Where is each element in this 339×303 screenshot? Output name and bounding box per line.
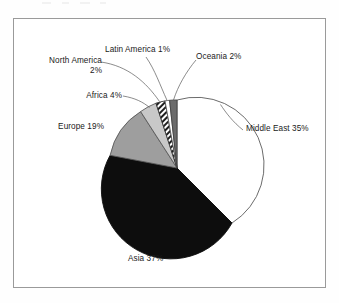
scan-artifact [80,2,90,4]
chart-page: North America 2% Latin America 1% Oceani… [0,0,339,303]
scan-artifact [42,2,51,4]
scan-artifact [62,2,69,4]
pie-label-oceania: Oceania 2% [196,52,241,62]
pie-label-asia: Asia 37% [128,254,163,264]
pie-label-north-america: North America 2% [30,56,102,75]
pie-label-africa: Africa 4% [58,91,122,101]
scan-artifact [100,2,106,4]
pie-label-europe: Europe 19% [30,122,104,132]
pie-label-north-america-line2: 2% [30,66,102,76]
pie-label-latin-america: Latin America 1% [105,45,170,55]
pie-label-middle-east: Middle East 35% [246,124,309,134]
pie-label-north-america-line1: North America [30,56,102,66]
